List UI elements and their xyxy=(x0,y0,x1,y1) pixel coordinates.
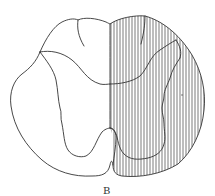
dorsal-notch-line xyxy=(78,20,84,46)
right-dorsal-notch-line xyxy=(141,16,145,44)
hatching-right-half xyxy=(111,0,204,196)
dot-mark xyxy=(181,94,182,95)
figure-label: B xyxy=(103,186,110,196)
ventral-fissure xyxy=(110,128,116,165)
right-ventral-horn-outline xyxy=(110,58,180,159)
left-ventral-horn-outline xyxy=(40,52,110,157)
spinal-cord-section-diagram xyxy=(0,0,215,196)
